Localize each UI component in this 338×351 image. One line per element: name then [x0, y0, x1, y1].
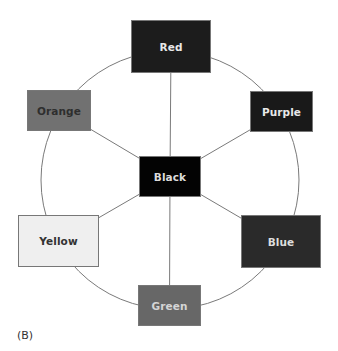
node-label-black: Black	[154, 171, 186, 183]
node-purple: Purple	[250, 91, 313, 132]
node-label-orange: Orange	[37, 105, 81, 117]
node-label-blue: Blue	[268, 236, 295, 248]
node-green: Green	[138, 285, 201, 326]
figure-caption: (B)	[17, 329, 33, 342]
node-label-green: Green	[151, 300, 187, 312]
color-wheel-diagram: Red Orange Purple Black Yellow Blue Gree…	[0, 0, 338, 351]
node-orange: Orange	[27, 90, 91, 131]
node-label-yellow: Yellow	[39, 235, 77, 247]
node-label-red: Red	[159, 41, 182, 53]
node-blue: Blue	[241, 215, 321, 268]
node-black: Black	[139, 156, 201, 197]
node-yellow: Yellow	[18, 215, 99, 267]
node-red: Red	[131, 20, 211, 73]
node-label-purple: Purple	[262, 106, 301, 118]
